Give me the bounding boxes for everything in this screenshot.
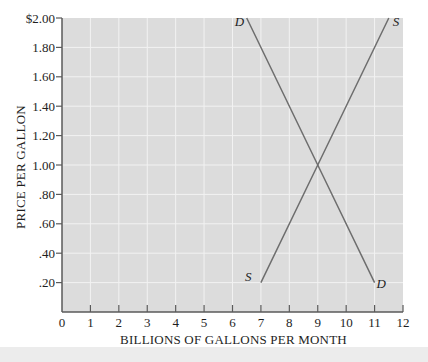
x-tick-label: 8 — [286, 315, 293, 330]
y-tick-label: .40 — [39, 246, 55, 261]
x-tick-label: 11 — [368, 315, 381, 330]
y-tick-label: .60 — [39, 216, 55, 231]
curve-label-s-bottom: S — [245, 269, 252, 284]
curve-label-d-bottom: D — [376, 276, 387, 291]
x-tick-label: 0 — [59, 315, 66, 330]
y-tick-label: .20 — [39, 275, 55, 290]
x-tick-label: 4 — [172, 315, 179, 330]
x-tick-label: 10 — [340, 315, 353, 330]
bottom-band — [0, 347, 428, 362]
x-tick-label: 12 — [397, 315, 410, 330]
x-tick-label: 6 — [229, 315, 236, 330]
x-tick-label: 9 — [315, 315, 322, 330]
y-tick-label: 1.20 — [32, 128, 55, 143]
x-axis-title: BILLIONS OF GALLONS PER MONTH — [120, 332, 347, 347]
y-tick-label: 1.00 — [32, 158, 55, 173]
y-tick-label: 1.60 — [32, 69, 55, 84]
curve-label-d-top: D — [234, 14, 245, 29]
y-tick-label: .80 — [39, 187, 55, 202]
x-tick-label: 1 — [87, 315, 94, 330]
supply-demand-chart: .20.40.60.801.001.201.401.601.80$2.00 01… — [0, 0, 428, 347]
x-tick-label: 7 — [258, 315, 265, 330]
curve-label-s-top: S — [393, 14, 400, 29]
y-tick-label: 1.40 — [32, 99, 55, 114]
y-axis-ticks: .20.40.60.801.001.201.401.601.80$2.00 — [26, 11, 62, 291]
y-tick-label: 1.80 — [32, 40, 55, 55]
x-tick-label: 2 — [116, 315, 123, 330]
x-tick-label: 3 — [144, 315, 151, 330]
y-axis-title: PRICE PER GALLON — [13, 105, 28, 229]
x-tick-label: 5 — [201, 315, 208, 330]
y-tick-label: $2.00 — [26, 11, 55, 26]
